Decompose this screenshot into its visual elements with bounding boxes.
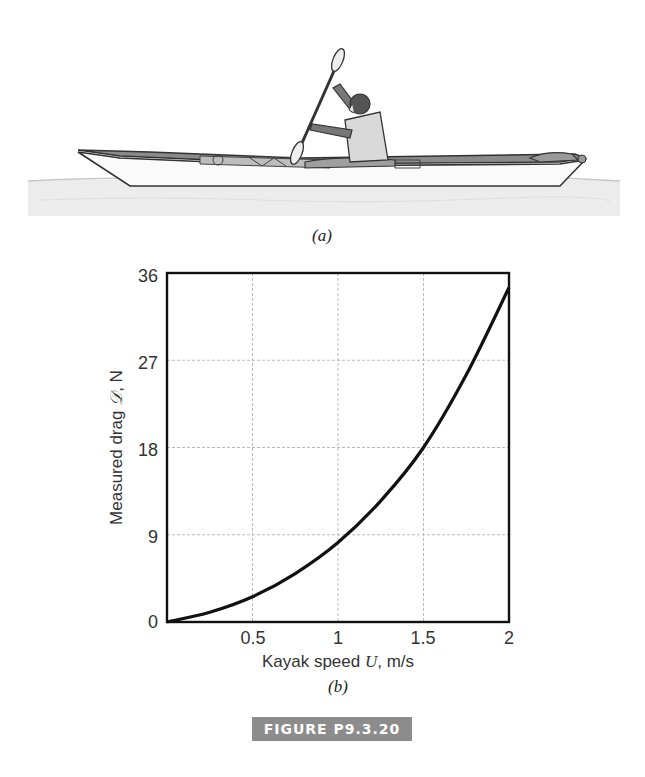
- x-tick-0.5: 0.5: [228, 628, 278, 649]
- y-axis-label: Measured drag 𝒟, N: [106, 318, 127, 578]
- x-axis-label: Kayak speed U, m/s: [208, 652, 468, 672]
- chart-grid: [167, 273, 509, 622]
- x-axis-label-text: Kayak speed: [262, 652, 365, 671]
- x-tick-1: 1: [313, 628, 363, 649]
- x-tick-2: 2: [484, 628, 534, 649]
- y-axis-variable: 𝒟: [106, 392, 126, 406]
- x-tick-1.5: 1.5: [398, 628, 448, 649]
- y-axis-unit: , N: [107, 370, 126, 392]
- x-axis-variable: U: [365, 652, 377, 671]
- x-axis-unit: , m/s: [377, 652, 414, 671]
- panel-b-label: (b): [308, 677, 368, 697]
- drag-chart: [0, 0, 645, 700]
- figure-caption: FIGURE P9.3.20: [252, 717, 412, 741]
- y-axis-label-text: Measured drag: [107, 406, 126, 525]
- y-tick-0: 0: [118, 612, 158, 633]
- y-tick-36: 36: [118, 266, 158, 287]
